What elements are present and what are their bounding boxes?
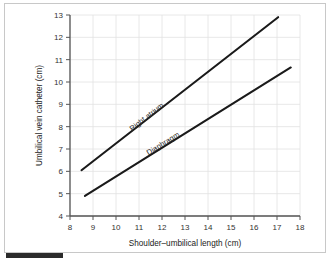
x-tick-label: 11 (135, 223, 144, 232)
y-tick-label: 11 (55, 56, 64, 65)
y-tick-label: 13 (54, 11, 63, 20)
x-tick-label: 10 (112, 223, 121, 232)
x-axis-title: Shoulder–umbilical length (cm) (129, 239, 242, 248)
y-tick-label: 8 (59, 123, 64, 132)
y-tick-label: 5 (59, 190, 64, 199)
y-tick-label: 6 (59, 167, 64, 176)
x-tick-label: 17 (273, 223, 282, 232)
x-tick-label: 16 (250, 223, 259, 232)
series-label: Right atrium (128, 101, 166, 133)
x-tick-label: 12 (158, 223, 167, 232)
y-tick-label: 9 (59, 100, 64, 109)
line-chart: 45678910111213 89101112131415161718 Righ… (0, 0, 332, 264)
x-tick-label: 8 (68, 223, 73, 232)
x-axis-ticks: 89101112131415161718 (68, 216, 305, 232)
vertical-gridlines (70, 15, 300, 216)
series-label: Diaphragm (145, 130, 181, 157)
y-tick-label: 7 (59, 145, 64, 154)
y-tick-label: 4 (59, 212, 64, 221)
x-tick-label: 14 (204, 223, 213, 232)
y-tick-label: 12 (54, 33, 63, 42)
data-series-lines (82, 17, 291, 196)
x-tick-label: 18 (296, 223, 305, 232)
x-tick-label: 15 (227, 223, 236, 232)
y-axis-title: Umbilical vein catheter (cm) (35, 65, 44, 166)
y-axis-ticks: 45678910111213 (54, 11, 70, 221)
y-tick-label: 10 (54, 78, 63, 87)
x-tick-label: 13 (181, 223, 190, 232)
x-tick-label: 9 (91, 223, 96, 232)
chart-figure: 45678910111213 89101112131415161718 Righ… (0, 0, 332, 264)
